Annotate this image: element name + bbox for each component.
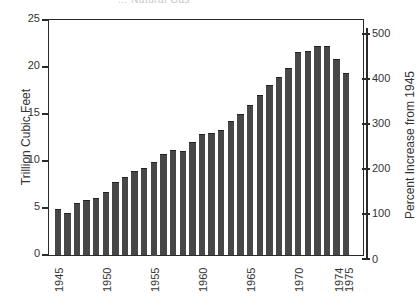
bar-1962 (218, 130, 224, 256)
x-tick-label: 1945 (53, 268, 65, 292)
right-y-axis-title: Percent Increase from 1945 (403, 55, 417, 235)
right-y-tick (362, 213, 370, 215)
bar-1957 (170, 150, 176, 255)
bar-1951 (112, 182, 118, 255)
y-tick-label: 20 (14, 59, 40, 71)
bar-1963 (228, 121, 234, 255)
bar-1968 (276, 77, 282, 256)
bar-1953 (131, 171, 137, 256)
bar-1975 (343, 73, 349, 255)
bar-1954 (141, 168, 147, 255)
y-axis-title: Trillion Cubic Feet (19, 77, 33, 197)
right-y-tick (362, 78, 370, 80)
bar-1969 (285, 68, 291, 255)
bar-1945 (55, 209, 61, 255)
right-y-tick-label: 200 (372, 162, 390, 174)
bar-1967 (266, 85, 272, 255)
bar-1960 (199, 134, 205, 255)
y-tick (42, 254, 48, 256)
bar-1974 (333, 59, 339, 255)
bar-1972 (314, 46, 320, 256)
right-y-tick (362, 168, 370, 170)
right-y-tick-label: 0 (372, 253, 378, 265)
bar-1959 (189, 142, 195, 256)
bar-1946 (64, 213, 70, 255)
bar-1965 (247, 105, 253, 255)
y-tick-label: 5 (14, 200, 40, 212)
x-tick-label: 1965 (245, 268, 257, 292)
right-axis-line (366, 28, 368, 260)
bar-1956 (160, 154, 166, 256)
x-tick-label: 1950 (101, 268, 113, 292)
y-tick (42, 19, 48, 21)
bar-1971 (305, 51, 311, 256)
y-tick (42, 113, 48, 115)
right-y-tick-label: 500 (372, 27, 390, 39)
x-tick-label: 1955 (149, 268, 161, 292)
right-y-tick-label: 100 (372, 207, 390, 219)
y-tick-label: 0 (14, 247, 40, 259)
y-tick (42, 66, 48, 68)
right-y-tick-label: 400 (372, 72, 390, 84)
bar-1947 (74, 203, 80, 256)
chart-title: ... Natural Gas (118, 0, 318, 5)
right-y-tick (362, 258, 370, 260)
bar-1950 (103, 192, 109, 256)
x-tick-label: 1960 (197, 268, 209, 292)
right-y-tick (362, 123, 370, 125)
bar-1961 (208, 133, 214, 255)
right-y-tick-label: 300 (372, 117, 390, 129)
bar-1958 (180, 151, 186, 255)
bar-1955 (151, 162, 157, 256)
right-y-tick (362, 33, 370, 35)
bar-1949 (93, 198, 99, 255)
x-tick-label: 1970 (293, 268, 305, 292)
bar-1973 (324, 46, 330, 256)
y-tick (42, 207, 48, 209)
bar-1966 (257, 95, 263, 256)
y-tick-label: 25 (14, 12, 40, 24)
bar-1964 (237, 114, 243, 256)
y-tick (42, 160, 48, 162)
x-tick-label: 1975 (343, 268, 355, 292)
bar-1952 (122, 177, 128, 256)
bar-1970 (295, 52, 301, 256)
bar-1948 (83, 200, 89, 255)
